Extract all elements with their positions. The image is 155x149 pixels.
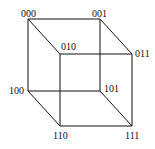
edge-001-011 bbox=[100, 19, 132, 54]
vertex-label-001: 001 bbox=[92, 9, 107, 19]
vertex-label-100: 100 bbox=[9, 86, 24, 96]
hypercube-diagram: 000001010011100101110111 bbox=[0, 0, 155, 149]
edge-101-111 bbox=[100, 91, 132, 126]
vertex-label-101: 101 bbox=[104, 84, 119, 94]
vertex-label-000: 000 bbox=[21, 9, 36, 19]
vertex-label-011: 011 bbox=[135, 49, 150, 59]
edge-100-110 bbox=[28, 91, 60, 126]
vertex-label-111: 111 bbox=[125, 131, 139, 141]
vertex-label-010: 010 bbox=[61, 42, 76, 52]
cube-edges bbox=[0, 0, 155, 149]
edge-000-010 bbox=[28, 19, 60, 54]
vertex-label-110: 110 bbox=[53, 131, 68, 141]
